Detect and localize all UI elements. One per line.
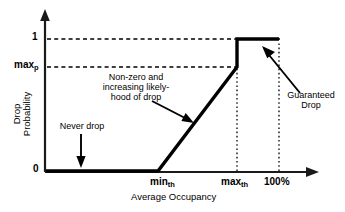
y-tick-label-one: 1 [32, 31, 38, 42]
annotation-nonzero-line-1: Non-zero and [89, 72, 183, 82]
annotation-guaranteed-line-2: Drop [281, 100, 341, 110]
x-tick-label-maxth: maxth [221, 176, 248, 187]
annotation-nonzero-line-3: hood of drop [89, 92, 183, 102]
y-tick-label-zero: 0 [33, 163, 39, 174]
annotation-guaranteed-drop: Guaranteed Drop [281, 90, 341, 110]
x-tick-label-minth: minth [150, 176, 175, 187]
annotation-nonzero-line-2: increasing likely- [89, 82, 183, 92]
annotation-never-drop-line-1: Never drop [53, 121, 111, 131]
annotation-guaranteed-line-1: Guaranteed [281, 90, 341, 100]
x-tick-maxth-base: max [221, 176, 241, 187]
never-drop-arrow-icon [76, 134, 85, 168]
annotation-nonzero-increasing: Non-zero and increasing likely- hood of … [89, 72, 183, 102]
nonzero-increasing-arrow-icon [152, 101, 194, 123]
x-tick-label-hundred: 100% [264, 176, 290, 187]
y-axis-title: Drop Probability [8, 78, 36, 150]
x-tick-minth-sub: th [168, 180, 175, 189]
y-tick-label-maxp: maxp [14, 59, 39, 70]
x-tick-maxth-sub: th [241, 180, 248, 189]
x-tick-minth-base: min [150, 176, 168, 187]
y-tick-maxp-base: max [14, 59, 34, 70]
y-axis-title-line-2: Probability [22, 92, 32, 136]
y-axis [40, 9, 50, 172]
annotation-never-drop: Never drop [53, 121, 111, 131]
x-axis-title: Average Occupancy [131, 192, 216, 203]
guaranteed-drop-arrow-icon [262, 46, 300, 93]
red-drop-probability-chart: 1 maxp 0 Drop Probability minth maxth 10… [0, 0, 345, 212]
y-tick-maxp-sub: p [34, 63, 39, 72]
